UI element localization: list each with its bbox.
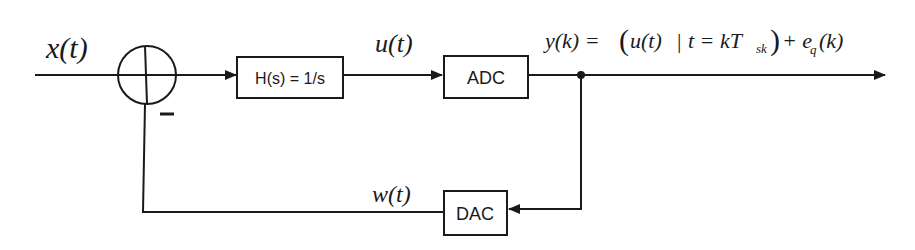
plus-e-term: + e xyxy=(782,28,812,53)
k-arg: (k) xyxy=(819,28,843,53)
dac-block: DAC xyxy=(444,191,507,235)
close-paren: ) xyxy=(770,23,780,57)
output-equation: y(k) = ( u(t) | t = kT sk ) + e q (k) xyxy=(543,23,843,57)
block-diagram: H(s) = 1/s ADC DAC x(t) u(t) w(t) y(k) =… xyxy=(0,0,915,250)
sk-subscript: sk xyxy=(756,41,767,56)
adc-label: ADC xyxy=(467,68,505,88)
summing-junction xyxy=(118,46,176,104)
bar: | xyxy=(677,28,681,53)
w-label: w(t) xyxy=(372,181,411,207)
q-subscript: q xyxy=(810,42,817,57)
input-label: x(t) xyxy=(45,31,88,65)
u-label: u(t) xyxy=(375,29,413,58)
integrator-label: H(s) = 1/s xyxy=(255,70,325,87)
output-lhs: y(k) = xyxy=(543,28,600,53)
integrator-block: H(s) = 1/s xyxy=(237,57,343,98)
u-term: u(t) xyxy=(630,28,662,53)
t-eq-term: t = kT xyxy=(688,28,744,53)
dac-label: DAC xyxy=(456,204,494,224)
open-paren: ( xyxy=(619,23,629,57)
adc-block: ADC xyxy=(444,56,528,98)
